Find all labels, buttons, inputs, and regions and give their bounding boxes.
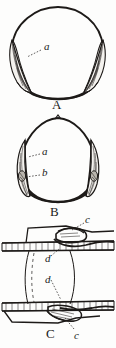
- figure-b-label-b-leader: [26, 175, 40, 177]
- figure-a-artwork: [10, 7, 106, 99]
- figure-a-right-lobe: [84, 40, 105, 92]
- illustration-plate: a A a b B c d d C c: [0, 0, 116, 348]
- figure-b-label-a-leader: [28, 154, 40, 157]
- figure-c-label-d-lower: d: [45, 274, 51, 285]
- figure-c-label-d-upper: d: [45, 253, 51, 264]
- figure-c-label-d-lower-leader: [51, 280, 61, 300]
- figure-a-label-leader: [27, 50, 41, 57]
- figure-a-caption: A: [52, 98, 61, 111]
- figure-c-left-inner-strand: [32, 253, 34, 302]
- figure-c-lower-clasp: [46, 305, 114, 321]
- figure-c-caption: C: [46, 327, 55, 340]
- figure-b-left-lobe: [17, 140, 30, 197]
- figure-b-artwork: [17, 115, 99, 202]
- figure-b-right-lobe: [86, 140, 99, 197]
- figure-b-outline: [21, 118, 96, 202]
- plate-artwork: [0, 0, 116, 348]
- figure-b-base-rim: [24, 182, 92, 202]
- figure-c-lower-flange: [4, 311, 100, 323]
- figure-b-label-a: a: [42, 146, 48, 157]
- figure-c-label-c-top: c: [85, 214, 90, 225]
- figure-b-label-b: b: [42, 167, 48, 178]
- figure-b-caption: B: [50, 205, 59, 218]
- figure-a-left-lobe: [10, 40, 31, 92]
- figure-a-label-a: a: [44, 41, 50, 52]
- figure-c-label-c-bottom: c: [74, 330, 79, 341]
- figure-c-right-strand: [70, 251, 75, 304]
- figure-c-left-strand: [25, 251, 29, 304]
- figure-c-artwork: [2, 223, 114, 329]
